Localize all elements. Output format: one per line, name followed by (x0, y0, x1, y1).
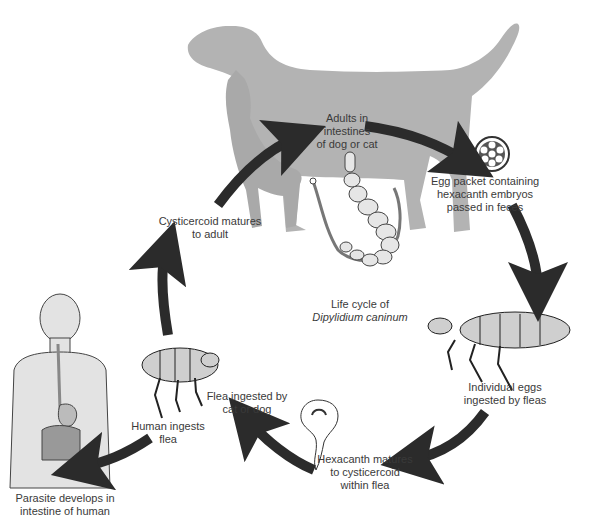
life-cycle-diagram: Adults in intestines of dog or cat Egg p… (0, 0, 591, 523)
label-cysticercoid-matures: Cysticercoid matures to adult (155, 215, 265, 241)
egg-packet-icon (475, 137, 509, 171)
label-human-intestine: Parasite develops in intestine of human (10, 492, 120, 518)
flea-icon (428, 312, 570, 390)
arrow-egg-to-flea (512, 205, 538, 292)
diagram-title: Life cycle of Dipylidium caninum (300, 298, 420, 324)
label-hexacanth-matures: Hexacanth matures to cysticercoid within… (310, 453, 420, 492)
arrow-hexacanth-to-flea-ingested (248, 420, 314, 470)
arrow-flea-to-hexacanth (410, 412, 485, 460)
label-egg-packet: Egg packet containing hexacanth embryos … (420, 175, 550, 214)
label-eggs-ingested: Individual eggs ingested by fleas (455, 381, 555, 407)
label-adults: Adults in intestines of dog or cat (314, 112, 380, 151)
label-human-ingests: Human ingests flea (128, 420, 208, 446)
arrow-flea-to-cysticercoid (162, 250, 168, 335)
label-flea-ingested: Flea ingested by cat or dog (197, 390, 297, 416)
